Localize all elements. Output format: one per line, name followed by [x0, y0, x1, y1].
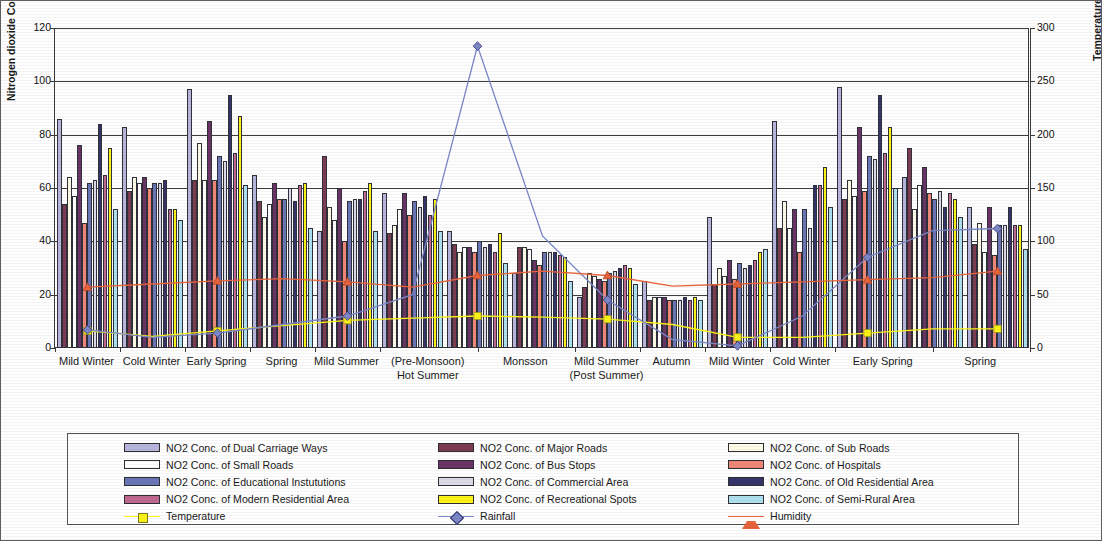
x-axis-tick — [835, 347, 836, 352]
x-axis-tick — [1030, 347, 1031, 352]
y-axis-right-tick — [1030, 188, 1035, 189]
legend-item[interactable]: NO2 Conc. of Recreational Spots — [438, 491, 637, 508]
line-marker-square-icon — [124, 511, 160, 522]
y-axis-left-tick — [50, 81, 55, 82]
y-axis-left-tick-label: 100 — [5, 74, 51, 86]
y-axis-left-tick — [50, 241, 55, 242]
x-axis-category-label: Monsson — [485, 355, 565, 369]
x-axis-tick — [120, 347, 121, 352]
legend-item[interactable]: NO2 Conc. of Hospitals — [728, 456, 934, 473]
y-axis-left-tick-label: 80 — [5, 128, 51, 140]
x-axis-tick — [315, 347, 316, 352]
y-axis-right-tick — [1030, 241, 1035, 242]
legend-item-label: NO2 Conc. of Modern Residential Area — [166, 493, 349, 505]
legend-item-label: NO2 Conc. of Sub Roads — [770, 442, 890, 454]
y-axis-left-tick-label: 60 — [5, 181, 51, 193]
legend-item-label: Humidity — [770, 510, 811, 522]
x-axis-tick — [250, 347, 251, 352]
y-axis-right-tick-label: 50 — [1037, 288, 1077, 300]
chart-legend: NO2 Conc. of Dual Carriage WaysNO2 Conc.… — [67, 433, 1019, 525]
legend-item[interactable]: NO2 Conc. of Commercial Area — [438, 473, 637, 490]
swatch-bus-stops-icon — [438, 460, 474, 469]
y-axis-left-tick-label: 20 — [5, 288, 51, 300]
y-axis-left-tick — [50, 135, 55, 136]
legend-item[interactable]: NO2 Conc. of Dual Carriage Ways — [124, 439, 349, 456]
x-axis-tick — [185, 347, 186, 352]
y-axis-left-tick-label: 40 — [5, 234, 51, 246]
legend-column-2: NO2 Conc. of Major RoadsNO2 Conc. of Bus… — [438, 439, 637, 525]
legend-item-label: NO2 Conc. of Major Roads — [480, 442, 607, 454]
y-axis-right-tick-label: 100 — [1037, 234, 1077, 246]
line-series-triangle — [88, 271, 998, 287]
legend-item-label: NO2 Conc. of Hospitals — [770, 459, 881, 471]
y-axis-right-tick — [1030, 81, 1035, 82]
x-axis-category-labels: Mild WinterCold WinterEarly SpringSpring… — [54, 353, 1029, 428]
y-axis-left-tick — [50, 295, 55, 296]
x-axis-category-label: (Pre-Monsoon) Hot Summer — [388, 355, 468, 382]
swatch-major-roads-icon — [438, 443, 474, 452]
legend-item-label: Rainfall — [480, 510, 515, 522]
legend-item-label: NO2 Conc. of Old Residential Area — [770, 476, 934, 488]
legend-item[interactable]: NO2 Conc. of Old Residential Area — [728, 473, 934, 490]
line-series-square — [88, 316, 998, 337]
y-axis-right-tick-label: 300 — [1037, 21, 1077, 33]
swatch-educational-institutions-icon — [124, 477, 160, 486]
legend-item-label: Temperature — [166, 510, 225, 522]
x-axis-tick — [640, 347, 641, 352]
x-axis-tick — [380, 347, 381, 352]
line-marker — [864, 329, 871, 336]
legend-column-1: NO2 Conc. of Dual Carriage WaysNO2 Conc.… — [124, 439, 349, 525]
line-marker — [993, 224, 1002, 233]
line-marker — [994, 325, 1001, 332]
line-marker — [734, 334, 741, 341]
legend-item[interactable]: Humidity — [728, 508, 934, 525]
y-axis-right-tick-label: 150 — [1037, 181, 1077, 193]
x-axis-tick — [770, 347, 771, 352]
plot-area: 020406080100120 050100150200250300 — [54, 28, 1029, 348]
x-axis-tick — [933, 347, 934, 352]
x-axis-category-label: Early Spring — [843, 355, 923, 369]
y-axis-right-title: Temperature (C ⁰), Rainfall (mm) & Humid… — [1091, 0, 1102, 61]
legend-item[interactable]: NO2 Conc. of Modern Residential Area — [124, 491, 349, 508]
legend-item[interactable]: NO2 Conc. of Bus Stops — [438, 456, 637, 473]
x-axis-tick — [575, 347, 576, 352]
y-axis-left-tick-label: 0 — [5, 341, 51, 353]
y-axis-left-tick-label: 120 — [5, 21, 51, 33]
plot-frame: 020406080100120 050100150200250300 — [54, 28, 1029, 348]
legend-item-label: NO2 Conc. of Semi-Rural Area — [770, 493, 915, 505]
legend-item[interactable]: NO2 Conc. of Educational Instututions — [124, 473, 349, 490]
line-marker — [604, 316, 611, 323]
chart-page: Nitrogen dioxide Conc. (ppb) Temperature… — [0, 0, 1102, 541]
line-marker — [993, 267, 1002, 275]
swatch-old-residential-area-icon — [728, 477, 764, 486]
y-axis-right-tick-label: 200 — [1037, 128, 1077, 140]
legend-item[interactable]: NO2 Conc. of Semi-Rural Area — [728, 491, 934, 508]
legend-item[interactable]: NO2 Conc. of Major Roads — [438, 439, 637, 456]
y-axis-right-tick-label: 250 — [1037, 74, 1077, 86]
legend-item[interactable]: NO2 Conc. of Sub Roads — [728, 439, 934, 456]
legend-item[interactable]: Temperature — [124, 508, 349, 525]
swatch-dual-carriage-ways-icon — [124, 443, 160, 452]
line-marker — [473, 42, 482, 51]
y-axis-right-tick — [1030, 135, 1035, 136]
legend-item[interactable]: Rainfall — [438, 508, 637, 525]
legend-item-label: NO2 Conc. of Commercial Area — [480, 476, 628, 488]
swatch-commercial-area-icon — [438, 477, 474, 486]
x-axis-category-label: Cold Winter — [762, 355, 842, 369]
legend-item[interactable]: NO2 Conc. of Small Roads — [124, 456, 349, 473]
legend-column-3: NO2 Conc. of Sub RoadsNO2 Conc. of Hospi… — [728, 439, 934, 525]
line-series-overlay — [55, 28, 1030, 348]
y-axis-left-tick — [50, 188, 55, 189]
y-axis-right-tick-label: 0 — [1037, 341, 1077, 353]
legend-item-label: NO2 Conc. of Educational Instututions — [166, 476, 346, 488]
x-axis-category-label: Spring — [940, 355, 1020, 369]
y-axis-left-tick — [50, 28, 55, 29]
swatch-recreational-spots-icon — [438, 495, 474, 504]
y-axis-right-tick — [1030, 295, 1035, 296]
legend-item-label: NO2 Conc. of Bus Stops — [480, 459, 595, 471]
swatch-modern-residential-area-icon — [124, 495, 160, 504]
line-marker — [733, 341, 742, 350]
line-marker-diamond-icon — [438, 511, 474, 522]
line-marker-triangle-icon — [728, 511, 764, 522]
swatch-semi-rural-area-icon — [728, 495, 764, 504]
